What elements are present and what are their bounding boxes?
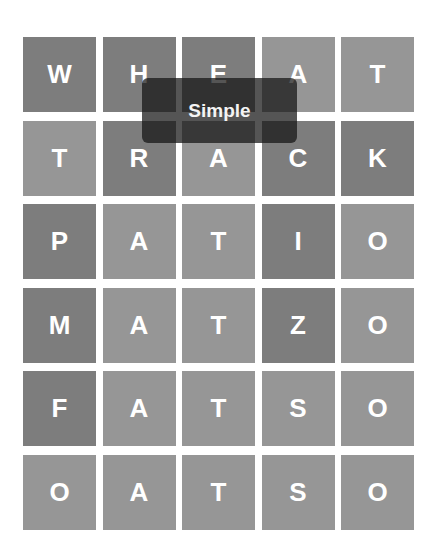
tile-r3-c4: I bbox=[262, 204, 335, 279]
tile-r4-c3: T bbox=[182, 288, 255, 363]
tile-r5-c3: T bbox=[182, 371, 255, 446]
tile-r6-c2: A bbox=[103, 455, 176, 530]
tile-r3-c1: P bbox=[23, 204, 96, 279]
tile-r6-c3: T bbox=[182, 455, 255, 530]
tile-r3-c2: A bbox=[103, 204, 176, 279]
tile-r6-c5: O bbox=[341, 455, 414, 530]
tile-r6-c1: O bbox=[23, 455, 96, 530]
tile-r5-c1: F bbox=[23, 371, 96, 446]
tile-r1-c1: W bbox=[23, 37, 96, 112]
tile-r2-c5: K bbox=[341, 121, 414, 196]
tile-r4-c2: A bbox=[103, 288, 176, 363]
tile-r5-c5: O bbox=[341, 371, 414, 446]
tile-r3-c3: T bbox=[182, 204, 255, 279]
tile-r2-c1: T bbox=[23, 121, 96, 196]
tile-r5-c2: A bbox=[103, 371, 176, 446]
tile-r5-c4: S bbox=[262, 371, 335, 446]
tile-r1-c5: T bbox=[341, 37, 414, 112]
tile-r3-c5: O bbox=[341, 204, 414, 279]
toast-message: Simple bbox=[142, 78, 297, 143]
tile-r4-c1: M bbox=[23, 288, 96, 363]
tile-r4-c5: O bbox=[341, 288, 414, 363]
tile-r6-c4: S bbox=[262, 455, 335, 530]
tile-r4-c4: Z bbox=[262, 288, 335, 363]
